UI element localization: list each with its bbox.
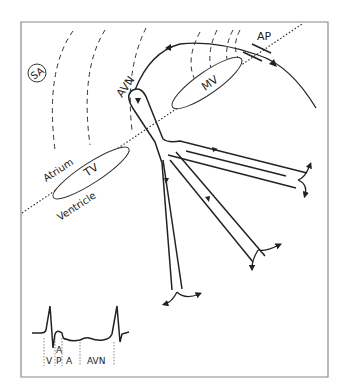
ecg-label-p: P (56, 356, 62, 366)
ap-label: AP (257, 30, 272, 43)
ecg-label-avn: AVN (87, 356, 105, 366)
ecg-label-v: V (46, 356, 53, 366)
diagram-border (21, 22, 328, 377)
his-purkinje-system (129, 89, 307, 290)
ecg-label-a-top: A (56, 345, 63, 355)
sa-node-label: SA (28, 64, 46, 82)
ecg-trace: V A P A AVN (32, 306, 129, 366)
ecg-label-a: A (66, 356, 73, 366)
avn-label: AVN (114, 74, 138, 100)
heart-conduction-diagram: SA AVN MV AP TV Atrium Ventricle V A P A… (0, 0, 349, 386)
